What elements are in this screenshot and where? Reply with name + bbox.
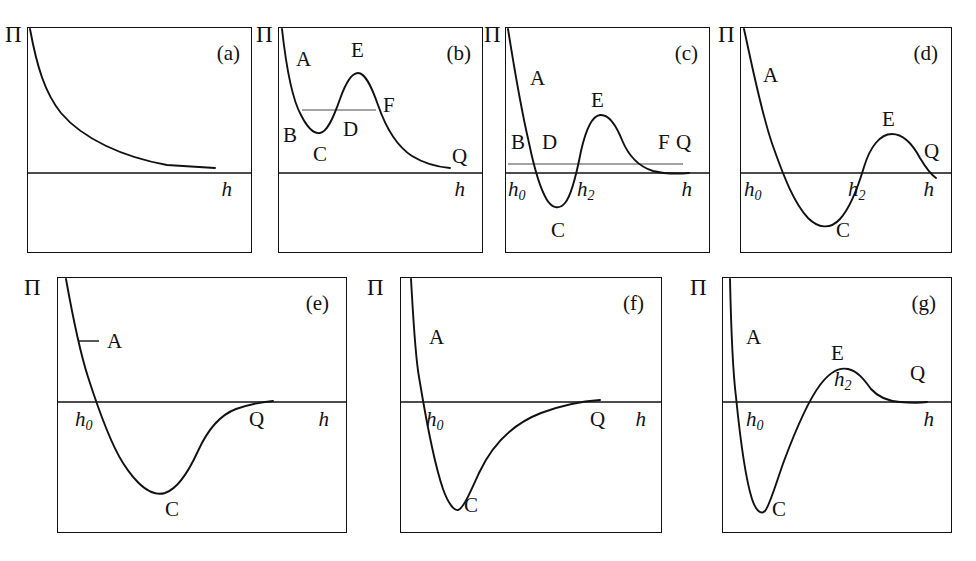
panel-g-h-label: h [924,409,935,430]
panel-g: (g) A C E Q h2 h0 h [722,277,952,533]
panel-e-point-C: C [165,499,179,520]
panel-c-point-Q: Q [676,132,691,153]
panel-d-h0-label: h0 [744,179,762,203]
panel-a-tag: (a) [217,41,240,66]
panel-g-point-A: A [746,327,761,348]
panel-f-h0-sub: 0 [437,418,444,433]
panel-b-h-label: h [455,179,466,200]
panel-c-h2-sub: 2 [588,188,595,203]
panel-e-point-A: A [107,331,122,352]
panel-d-h-label: h [924,179,935,200]
panel-d-tag: (d) [914,41,939,66]
panel-d-point-E: E [882,109,895,130]
panel-e-pi-label: П [24,276,41,299]
panel-c-h-label: h [682,179,693,200]
panel-c-pi-label: П [484,23,501,46]
panel-d: (d) A C E Q h0 h2 h [740,27,952,253]
panel-b-point-D: D [343,119,358,140]
panel-g-h2-label: h2 [834,369,852,393]
panel-b-point-A: A [296,49,311,70]
panel-b-point-Q: Q [452,146,467,167]
panel-b-tag: (b) [447,41,472,66]
panel-b-pi-label: П [256,23,273,46]
panel-g-h0-label: h0 [746,409,764,433]
panel-g-h0-base: h [746,407,757,431]
panel-c-point-B: B [511,132,525,153]
panel-d-h2-sub: 2 [859,188,866,203]
panel-g-pi-label: П [690,276,707,299]
panel-c-point-A: A [530,68,545,89]
panel-f-pi-label: П [367,276,384,299]
panel-c-point-E: E [591,90,604,111]
panel-c-curve [508,29,689,207]
panel-g-point-C: C [772,499,786,520]
panel-c-point-C: C [551,220,565,241]
panel-g-point-Q: Q [910,363,925,384]
panel-e: (e) A C Q h0 h [57,277,347,533]
panel-b-point-F: F [383,95,395,116]
panel-b-point-E: E [351,40,364,61]
panel-d-point-Q: Q [924,141,939,162]
panel-f: (f) A C Q h0 h [400,277,662,533]
panel-e-h0-sub: 0 [86,418,93,433]
panel-c-point-D: D [542,132,557,153]
panel-g-point-E: E [831,343,844,364]
panel-c-h2-label: h2 [577,179,595,203]
panel-g-curve [730,279,927,513]
panel-c-point-F: F [658,132,670,153]
panel-e-point-Q: Q [249,409,264,430]
panel-d-h2-label: h2 [848,179,866,203]
panel-d-point-C: C [836,220,850,241]
panel-c: (c) A B C D E F Q h0 h2 h [505,27,710,253]
panel-g-tag: (g) [912,291,937,316]
panel-c-h0-base: h [508,177,519,201]
panel-f-tag: (f) [623,291,644,316]
panel-f-point-C: C [464,495,478,516]
panel-d-h2-base: h [848,177,859,201]
panel-a-h-label: h [222,179,233,200]
panel-c-h2-base: h [577,177,588,201]
panel-e-tag: (e) [306,291,329,316]
panel-f-h0-label: h0 [426,409,444,433]
panel-b-point-C: C [313,144,327,165]
panel-d-curve [744,29,936,226]
panel-a: (a) h [27,27,252,253]
panel-e-curve [66,279,273,494]
panel-e-h0-label: h0 [75,409,93,433]
panel-e-plot [57,277,347,533]
panel-g-h2-sub: 2 [845,378,852,393]
panel-f-point-A: A [429,327,444,348]
panel-f-point-Q: Q [590,409,605,430]
panel-d-point-A: A [763,65,778,86]
panel-c-h0-sub: 0 [519,188,526,203]
panel-f-h0-base: h [426,407,437,431]
panel-d-h0-base: h [744,177,755,201]
panel-e-h-label: h [319,409,330,430]
panel-a-pi-label: П [5,23,22,46]
panel-b: (b) A B C D E F Q h [278,27,483,253]
panel-f-h-label: h [636,409,647,430]
panel-c-tag: (c) [675,41,698,66]
panel-b-point-B: B [283,125,297,146]
panel-g-h0-sub: 0 [757,418,764,433]
panel-d-h0-sub: 0 [755,188,762,203]
panel-c-h0-label: h0 [508,179,526,203]
panel-d-pi-label: П [718,23,735,46]
panel-f-curve [411,279,600,510]
panel-a-curve [30,29,215,168]
panel-e-h0-base: h [75,407,86,431]
panel-g-h2-base: h [834,367,845,391]
